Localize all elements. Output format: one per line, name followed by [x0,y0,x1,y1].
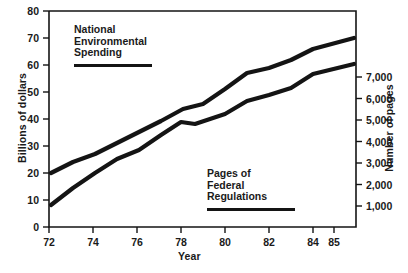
x-tick-label-76: 76 [122,236,152,248]
legend-regulations-line-3: Regulations [207,191,295,203]
y-axis-label-right: Number of pages [383,68,395,188]
x-tick-label-78: 78 [166,236,196,248]
legend-regulations-rule [207,208,295,211]
right-tick-label-1000: 1,000 [366,200,408,212]
x-axis-label: Year [178,250,201,262]
left-axis-ticks [43,11,49,227]
legend-spending-rule [74,64,152,67]
legend-pages-of-federal-regulations: Pages of Federal Regulations [207,168,295,211]
chart-figure: 80 70 60 50 40 30 20 10 0 7,000 6,000 5,… [0,0,408,273]
legend-spending-line-1: National [74,24,152,36]
legend-regulations-line-1: Pages of [207,168,295,180]
x-tick-label-82: 82 [254,236,284,248]
x-tick-label-85: 85 [319,236,349,248]
left-tick-label-0: 0 [5,221,39,233]
series-line-pages-of-federal-regulations [51,64,354,205]
right-axis-ticks [356,77,362,206]
x-axis-ticks [49,227,334,233]
left-tick-label-70: 70 [5,32,39,44]
legend-national-environmental-spending: National Environmental Spending [74,24,152,67]
y-axis-label-left: Billions of dollars [16,58,28,178]
x-tick-label-74: 74 [78,236,108,248]
line-chart-canvas [0,0,408,273]
x-tick-label-80: 80 [210,236,240,248]
left-tick-label-80: 80 [5,5,39,17]
left-tick-label-10: 10 [5,194,39,206]
x-tick-label-72: 72 [34,236,64,248]
legend-spending-line-3: Spending [74,47,152,59]
